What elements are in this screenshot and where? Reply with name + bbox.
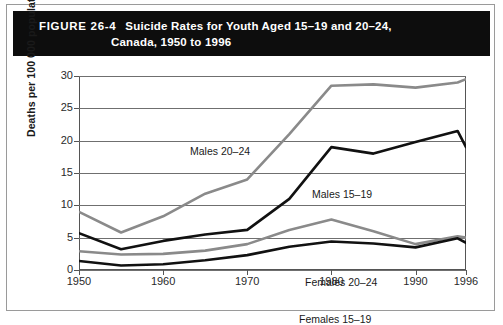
y-tick-label: 20: [33, 134, 73, 146]
y-tick-label: 25: [33, 101, 73, 113]
series-label-females-15-19: Females 15–19: [299, 313, 371, 325]
y-tick-label: 5: [33, 231, 73, 243]
figure-container: FIGURE 26-4Suicide Rates for Youth Aged …: [6, 4, 495, 311]
series-line: [79, 131, 466, 249]
gridline: [79, 270, 466, 271]
x-tick-mark: [416, 270, 417, 275]
series-label-males-20-24: Males 20–24: [190, 145, 250, 157]
x-tick-mark: [79, 270, 80, 275]
x-tick-label: 1970: [217, 275, 277, 287]
x-tick-label: 1960: [133, 275, 193, 287]
x-tick-mark: [331, 270, 332, 275]
chart-area: Deaths per 100 000 population 3025201510…: [7, 57, 496, 310]
x-tick-label: 1996: [436, 275, 496, 287]
figure-title-banner: FIGURE 26-4Suicide Rates for Youth Aged …: [13, 11, 490, 56]
x-tick-mark: [466, 270, 467, 275]
figure-number: FIGURE 26-4: [39, 20, 116, 32]
figure-title-line1: Suicide Rates for Youth Aged 15–19 and 2…: [125, 20, 391, 32]
y-tick-label: 15: [33, 166, 73, 178]
x-tick-label: 1950: [49, 275, 109, 287]
y-tick-label: 0: [33, 263, 73, 275]
series-line: [79, 79, 466, 232]
figure-title-text: FIGURE 26-4Suicide Rates for Youth Aged …: [39, 17, 482, 50]
data-lines: [79, 76, 466, 270]
series-label-males-15-19: Males 15–19: [312, 188, 372, 200]
figure-title-line2: Canada, 1950 to 1996: [111, 35, 482, 51]
y-tick-label: 10: [33, 198, 73, 210]
x-tick-mark: [247, 270, 248, 275]
x-tick-mark: [163, 270, 164, 275]
y-tick-label: 30: [33, 69, 73, 81]
series-label-females-20-24: Females 20–24: [305, 276, 377, 288]
